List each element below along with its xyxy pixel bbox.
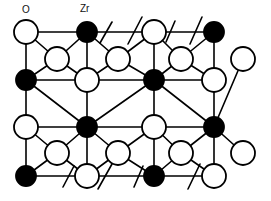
atom-zr-d4 [204, 117, 224, 137]
atom-zr-d2 [77, 117, 97, 137]
atom-o-b1 [45, 47, 69, 71]
atom-o-d3 [142, 115, 166, 139]
stub-top-2 [128, 17, 142, 44]
atom-o-a1 [14, 20, 38, 44]
label-zirconium: Zr [80, 4, 89, 14]
atom-zr-c1 [16, 70, 36, 90]
atom-zr-f3 [144, 166, 164, 186]
label-oxygen: O [22, 5, 30, 15]
atom-o-f2 [75, 164, 99, 188]
lattice-diagram [0, 0, 271, 201]
atom-zr-f1 [16, 166, 36, 186]
crystal-structure-figure: O Zr [0, 0, 271, 201]
atom-o-b4 [231, 47, 255, 71]
atom-o-b2 [106, 47, 130, 71]
stub-top-4 [190, 17, 202, 44]
atom-o-c2 [75, 68, 99, 92]
atom-zr-a4 [204, 22, 224, 42]
atom-zr-c3 [144, 70, 164, 90]
atom-o-f4 [202, 164, 226, 188]
atom-o-a3 [142, 20, 166, 44]
atom-o-b3 [169, 47, 193, 71]
atom-o-e1 [45, 141, 69, 165]
atom-o-e3 [169, 141, 193, 165]
atom-o-e2 [106, 141, 130, 165]
atom-o-d1 [14, 115, 38, 139]
atom-o-c4 [202, 68, 226, 92]
atom-zr-a2 [77, 22, 97, 42]
atom-o-e4 [231, 141, 255, 165]
